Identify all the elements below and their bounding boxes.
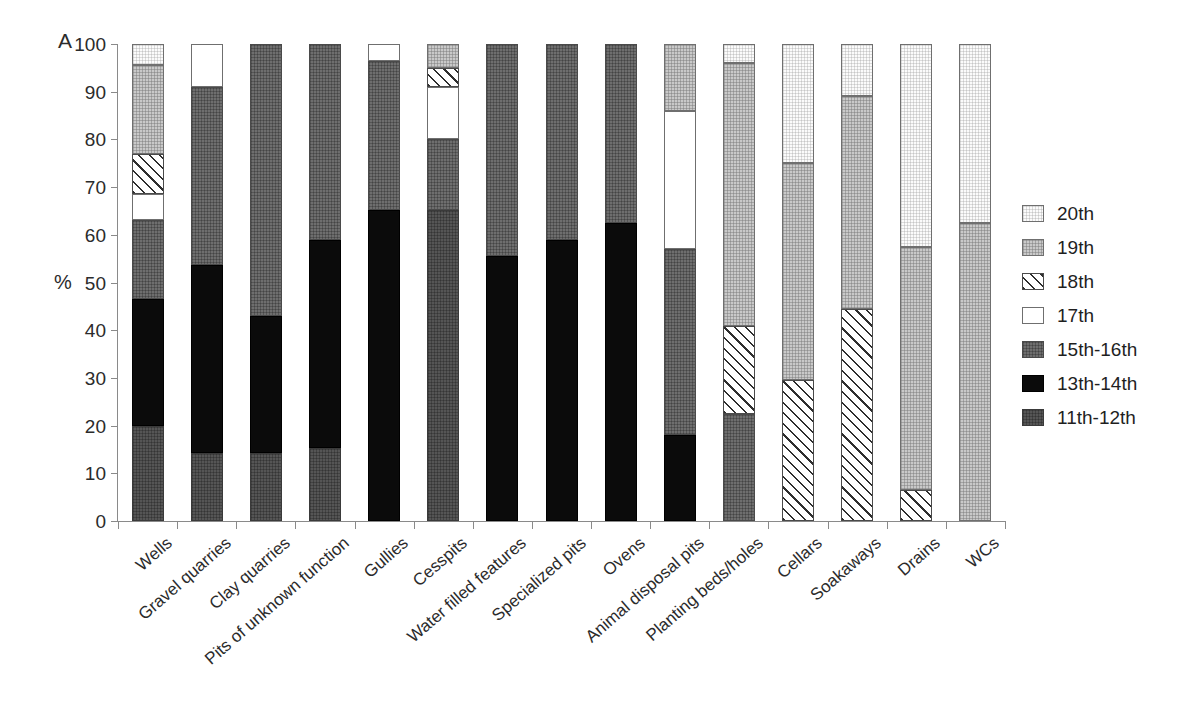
y-tick-mark — [111, 330, 118, 331]
y-tick-label: 40 — [66, 321, 106, 340]
bar-segment-13th-14th — [664, 435, 696, 521]
bar-wcs[interactable] — [959, 44, 991, 521]
x-axis-label-text: Gullies — [361, 534, 412, 582]
x-tick-mark — [946, 522, 947, 529]
legend-item-label: 13th-14th — [1057, 374, 1137, 393]
bar-segment-18th — [723, 326, 755, 414]
bar-water-filled-features[interactable] — [486, 44, 518, 521]
y-tick-mark — [111, 92, 118, 93]
x-tick-mark — [177, 522, 178, 529]
legend: 20th19th18th17th15th-16th13th-14th11th-1… — [1022, 196, 1192, 434]
x-axis-label: WCs — [964, 534, 1004, 572]
y-tick-mark — [111, 378, 118, 379]
x-tick-mark — [118, 522, 119, 529]
x-tick-mark — [650, 522, 651, 529]
x-axis-label: Ovens — [600, 534, 649, 580]
x-axis-label: Drains — [895, 534, 944, 580]
x-axis-line — [117, 521, 1006, 522]
bar-segment-15th-16th — [368, 61, 400, 210]
bar-cellars[interactable] — [782, 44, 814, 521]
legend-item-18th[interactable]: 18th — [1022, 264, 1192, 298]
legend-item-13th-14th[interactable]: 13th-14th — [1022, 366, 1192, 400]
bar-segment-15th-16th — [191, 87, 223, 265]
y-tick-label: 60 — [66, 226, 106, 245]
y-tick-label: 30 — [66, 369, 106, 388]
bar-segment-13th-14th — [368, 210, 400, 521]
legend-item-label: 20th — [1057, 204, 1094, 223]
bar-planting-beds-holes[interactable] — [723, 44, 755, 521]
x-tick-mark — [887, 522, 888, 529]
x-tick-mark — [1005, 522, 1006, 529]
x-tick-mark — [295, 522, 296, 529]
bar-gravel-quarries[interactable] — [191, 44, 223, 521]
x-axis-label-text: Cellars — [774, 534, 826, 582]
bar-clay-quarries[interactable] — [250, 44, 282, 521]
bar-segment-15th-16th — [664, 249, 696, 435]
y-tick-label: 20 — [66, 417, 106, 436]
bar-segment-15th-16th — [427, 139, 459, 210]
bar-specialized-pits[interactable] — [546, 44, 578, 521]
bar-soakaways[interactable] — [841, 44, 873, 521]
legend-swatch-icon — [1022, 307, 1044, 324]
bar-segment-15th-16th — [486, 44, 518, 256]
legend-swatch-icon — [1022, 375, 1044, 392]
bar-wells[interactable] — [132, 44, 164, 521]
bar-segment-15th-16th — [132, 220, 164, 299]
bar-segment-13th-14th — [605, 223, 637, 521]
bar-segment-13th-14th — [309, 240, 341, 449]
bar-segment-18th — [427, 68, 459, 87]
bar-gullies[interactable] — [368, 44, 400, 521]
bar-segment-19th — [427, 44, 459, 68]
bar-segment-13th-14th — [546, 240, 578, 521]
legend-item-label: 18th — [1057, 272, 1094, 291]
bar-segment-18th — [900, 490, 932, 521]
x-tick-mark — [236, 522, 237, 529]
bar-segment-15th-16th — [605, 44, 637, 223]
bar-segment-20th — [782, 44, 814, 163]
bar-segment-13th-14th — [486, 256, 518, 521]
bar-segment-19th — [132, 65, 164, 153]
x-tick-mark — [532, 522, 533, 529]
x-axis-label-text: WCs — [964, 534, 1004, 572]
bar-segment-19th — [841, 96, 873, 308]
x-tick-mark — [414, 522, 415, 529]
bar-segment-18th — [841, 309, 873, 521]
legend-item-11th-12th[interactable]: 11th-12th — [1022, 400, 1192, 434]
y-tick-mark — [111, 139, 118, 140]
bar-segment-19th — [782, 163, 814, 380]
bar-animal-disposal-pits[interactable] — [664, 44, 696, 521]
bar-segment-20th — [723, 44, 755, 63]
bar-drains[interactable] — [900, 44, 932, 521]
legend-item-17th[interactable]: 17th — [1022, 298, 1192, 332]
x-tick-mark — [591, 522, 592, 529]
bar-ovens[interactable] — [605, 44, 637, 521]
y-tick-label: 90 — [66, 83, 106, 102]
bar-segment-18th — [132, 154, 164, 195]
legend-swatch-icon — [1022, 239, 1044, 256]
y-tick-mark — [111, 473, 118, 474]
legend-swatch-icon — [1022, 341, 1044, 358]
x-axis-label: Gullies — [361, 534, 412, 582]
y-axis-ticks: 0102030405060708090100 — [0, 0, 118, 712]
bar-segment-19th — [900, 247, 932, 490]
y-tick-label: 0 — [66, 512, 106, 531]
legend-item-20th[interactable]: 20th — [1022, 196, 1192, 230]
bar-segment-19th — [664, 44, 696, 111]
y-tick-label: 100 — [66, 35, 106, 54]
legend-swatch-icon — [1022, 205, 1044, 222]
legend-item-15th-16th[interactable]: 15th-16th — [1022, 332, 1192, 366]
y-tick-mark — [111, 426, 118, 427]
legend-item-label: 15th-16th — [1057, 340, 1137, 359]
x-axis-label: Wells — [132, 534, 175, 575]
legend-item-19th[interactable]: 19th — [1022, 230, 1192, 264]
x-axis-label: Cellars — [774, 534, 826, 582]
bar-segment-17th — [427, 87, 459, 139]
bar-segment-20th — [959, 44, 991, 223]
bar-cesspits[interactable] — [427, 44, 459, 521]
bar-segment-15th-16th — [723, 414, 755, 521]
y-tick-label: 50 — [66, 274, 106, 293]
bar-pits-of-unknown-function[interactable] — [309, 44, 341, 521]
y-tick-mark — [111, 235, 118, 236]
bar-segment-13th-14th — [250, 316, 282, 452]
x-axis-label-text: Planting beds/holes — [643, 534, 767, 645]
